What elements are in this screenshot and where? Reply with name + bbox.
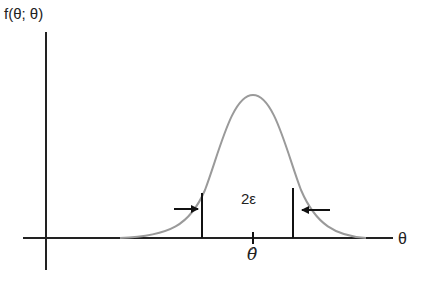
bell-curve [120,95,366,238]
diagram-canvas: f(θ; θ) θ 2ε θ̂ [0,0,423,285]
estimate-label: θ̂ [247,244,257,264]
interval-label: 2ε [241,190,256,207]
diagram-svg [0,0,423,285]
y-axis-label: f(θ; θ) [4,5,43,22]
x-axis-label: θ [398,230,407,248]
